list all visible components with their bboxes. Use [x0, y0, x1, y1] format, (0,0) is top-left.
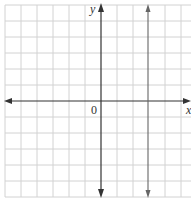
- x-axis-label: x: [186, 103, 191, 118]
- y-axis-up-arrow-icon: [98, 3, 104, 12]
- y-axis-label: y: [90, 2, 95, 17]
- origin-label: 0: [91, 103, 97, 118]
- coordinate-grid: [0, 0, 191, 201]
